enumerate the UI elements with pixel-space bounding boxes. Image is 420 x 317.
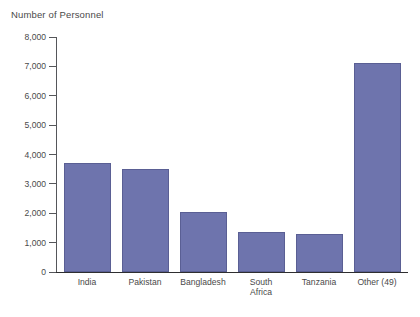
- y-tick-label: 0: [2, 267, 46, 277]
- bar: [296, 234, 343, 272]
- y-tick-label: 1,000: [2, 238, 46, 248]
- y-tick-label: 6,000: [2, 91, 46, 101]
- y-tick-label: 8,000: [2, 32, 46, 42]
- y-tick-mark: [49, 242, 56, 243]
- y-tick-label: 7,000: [2, 61, 46, 71]
- x-axis-line: [56, 272, 408, 273]
- y-tick-mark: [49, 125, 56, 126]
- y-tick-label: 3,000: [2, 179, 46, 189]
- y-tick-mark: [49, 272, 56, 273]
- x-axis-category-label: Tanzania: [290, 277, 348, 287]
- x-axis-category-label: Pakistan: [116, 277, 174, 287]
- bar: [122, 169, 169, 272]
- cut-off-caption: [108, 309, 298, 317]
- y-tick-mark: [49, 154, 56, 155]
- x-axis-category-label: Bangladesh: [174, 277, 232, 287]
- y-tick-mark: [49, 66, 56, 67]
- y-tick-mark: [49, 213, 56, 214]
- y-tick-label: 2,000: [2, 208, 46, 218]
- bar: [238, 232, 285, 272]
- bar: [64, 163, 111, 272]
- bar: [354, 63, 401, 272]
- x-axis-category-label: India: [58, 277, 116, 287]
- bar: [180, 212, 227, 272]
- y-axis-line: [56, 37, 57, 273]
- y-tick-mark: [49, 183, 56, 184]
- y-tick-label: 4,000: [2, 150, 46, 160]
- x-axis-category-label: South Africa: [232, 277, 290, 298]
- x-axis-category-label: Other (49): [348, 277, 406, 287]
- plot-area: 01,0002,0003,0004,0005,0006,0007,0008,00…: [0, 0, 420, 317]
- y-tick-mark: [49, 95, 56, 96]
- y-tick-mark: [49, 37, 56, 38]
- bar-chart-figure: Number of Personnel 01,0002,0003,0004,00…: [0, 0, 420, 317]
- y-tick-label: 5,000: [2, 120, 46, 130]
